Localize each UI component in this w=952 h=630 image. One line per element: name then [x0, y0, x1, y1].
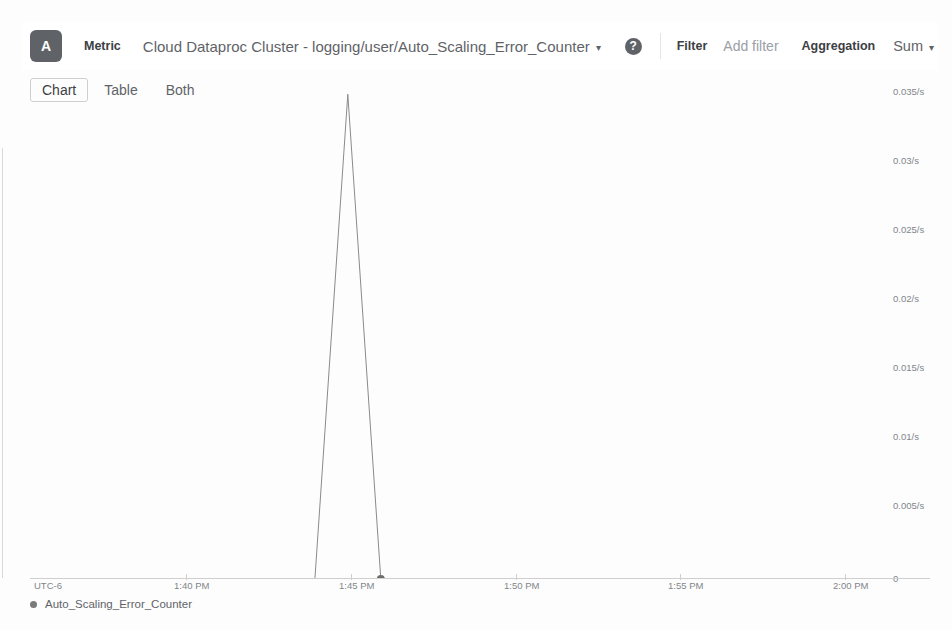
- chart-legend: Auto_Scaling_Error_Counter: [30, 598, 192, 610]
- x-tick-mark: [845, 574, 846, 580]
- x-tick-mark: [680, 574, 681, 580]
- x-tick-mark: [351, 574, 352, 580]
- aggregation-selector[interactable]: Sum▾: [893, 38, 934, 54]
- x-tick-mark: [516, 574, 517, 580]
- metric-label: Metric: [84, 39, 121, 53]
- x-axis-line: [30, 578, 930, 579]
- aggregation-selector-value: Sum: [893, 38, 923, 54]
- aggregation-label: Aggregation: [802, 39, 876, 53]
- chevron-down-icon: ▾: [596, 42, 601, 53]
- metrics-explorer-chart-panel: A Metric Cloud Dataproc Cluster - loggin…: [0, 0, 952, 630]
- y-tick-5: 0.01/s: [893, 431, 919, 442]
- timezone-label: UTC-6: [34, 580, 62, 591]
- y-tick-2: 0.025/s: [893, 224, 924, 235]
- metric-selector[interactable]: Cloud Dataproc Cluster - logging/user/Au…: [143, 38, 601, 55]
- y-tick-6: 0.005/s: [893, 500, 924, 511]
- series-badge: A: [30, 30, 62, 62]
- x-tick-0: 1:40 PM: [174, 580, 209, 591]
- x-tick-mark: [186, 574, 187, 580]
- metric-selector-value: Cloud Dataproc Cluster - logging/user/Au…: [143, 38, 590, 55]
- series-line-svg: [30, 80, 885, 579]
- x-tick-3: 1:55 PM: [668, 580, 703, 591]
- filter-label: Filter: [677, 39, 708, 53]
- series-line-auto-scaling-error-counter: [84, 94, 885, 579]
- filter-input[interactable]: Add filter: [723, 38, 778, 54]
- y-tick-4: 0.015/s: [893, 362, 924, 373]
- y-tick-1: 0.03/s: [893, 155, 919, 166]
- x-axis-labels: UTC-6 1:40 PM 1:45 PM 1:50 PM 1:55 PM 2:…: [0, 580, 952, 598]
- x-tick-2: 1:50 PM: [504, 580, 539, 591]
- chevron-down-icon: ▾: [929, 42, 934, 53]
- x-tick-1: 1:45 PM: [339, 580, 374, 591]
- metric-config-header: A Metric Cloud Dataproc Cluster - loggin…: [22, 22, 938, 70]
- header-divider: [660, 33, 661, 59]
- y-tick-0: 0.035/s: [893, 86, 924, 97]
- help-icon[interactable]: ?: [625, 38, 642, 55]
- chart-canvas: 0.035/s 0.03/s 0.025/s 0.02/s 0.015/s 0.…: [0, 80, 952, 580]
- plot-area: [30, 80, 885, 579]
- x-tick-4: 2:00 PM: [833, 580, 868, 591]
- y-tick-3: 0.02/s: [893, 293, 919, 304]
- legend-dot-icon: [30, 601, 37, 608]
- y-axis-labels: 0.035/s 0.03/s 0.025/s 0.02/s 0.015/s 0.…: [893, 80, 952, 580]
- legend-label[interactable]: Auto_Scaling_Error_Counter: [45, 598, 192, 610]
